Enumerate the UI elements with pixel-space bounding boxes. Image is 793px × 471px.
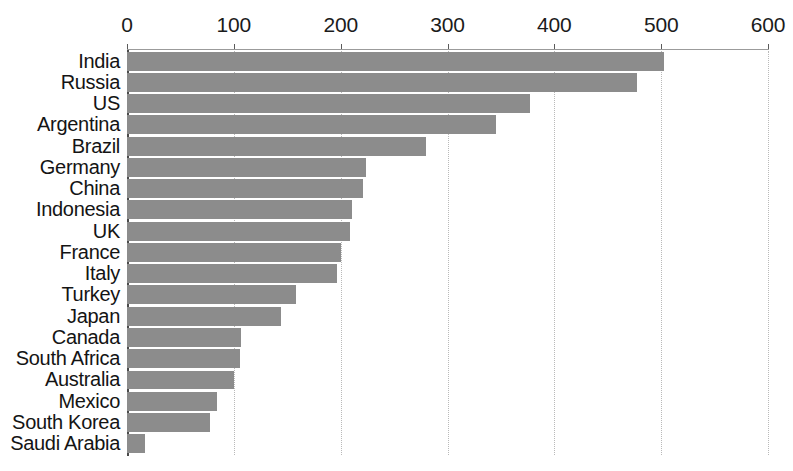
plot-area — [127, 51, 768, 455]
bar — [127, 371, 234, 390]
x-tick-label: 500 — [644, 13, 678, 37]
y-category-label: Saudi Arabia — [10, 433, 120, 454]
y-category-label: Russia — [61, 72, 120, 93]
bar — [127, 200, 352, 219]
x-tick-label: 200 — [323, 13, 357, 37]
y-category-label: Argentina — [37, 114, 120, 135]
bar — [127, 94, 530, 113]
y-category-label: UK — [93, 221, 120, 242]
y-category-label: Germany — [40, 157, 120, 178]
bar — [127, 137, 426, 156]
bar — [127, 285, 296, 304]
y-category-label: Australia — [45, 369, 120, 390]
bar — [127, 264, 337, 283]
bar — [127, 115, 496, 134]
bar — [127, 413, 210, 432]
y-category-label: South Africa — [16, 348, 120, 369]
y-category-label: US — [93, 93, 120, 114]
bar — [127, 434, 145, 453]
x-tick-label: 300 — [430, 13, 464, 37]
y-category-label: France — [60, 242, 120, 263]
bar — [127, 52, 664, 71]
bar — [127, 243, 341, 262]
bar — [127, 328, 241, 347]
x-tick-label: 0 — [121, 13, 132, 37]
bar — [127, 73, 637, 92]
y-category-label: Japan — [67, 306, 120, 327]
bar — [127, 307, 281, 326]
bar — [127, 349, 240, 368]
y-category-label: China — [69, 178, 120, 199]
y-category-label: Turkey — [61, 284, 120, 305]
x-tick-label: 600 — [751, 13, 785, 37]
bar — [127, 158, 366, 177]
bar — [127, 392, 217, 411]
x-tick-label: 100 — [217, 13, 251, 37]
y-category-label: Indonesia — [36, 199, 120, 220]
gridline — [554, 51, 556, 455]
gridline — [768, 51, 770, 455]
y-category-label: Canada — [52, 327, 120, 348]
y-category-label: Mexico — [58, 391, 120, 412]
y-category-label: South Korea — [12, 412, 120, 433]
y-category-label: Brazil — [72, 136, 120, 157]
x-tick-label: 400 — [537, 13, 571, 37]
bar-chart: 0100200300400500600 IndiaRussiaUSArgenti… — [0, 0, 793, 471]
y-category-label: India — [78, 51, 120, 72]
y-axis-category-labels: IndiaRussiaUSArgentinaBrazilGermanyChina… — [0, 51, 123, 455]
gridline — [661, 51, 663, 455]
bar — [127, 222, 350, 241]
y-category-label: Italy — [85, 263, 120, 284]
x-axis-line — [127, 49, 769, 50]
bar — [127, 179, 363, 198]
